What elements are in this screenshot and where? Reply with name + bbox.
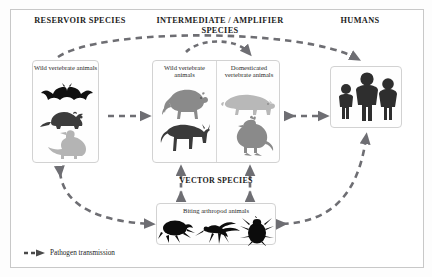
mosquito-silhouette: [195, 222, 240, 244]
box-label-intermediate-wild: Wild vertebrate animals: [153, 61, 216, 79]
flea-silhouette: [158, 221, 195, 244]
box-label-vector: Biting arthropod animals: [157, 204, 275, 214]
legend-label: Pathogen transmission: [50, 249, 115, 257]
dashed-arrow-icon: [24, 249, 46, 257]
reservoir-animal-silhouettes: [33, 79, 100, 161]
header-vector-species: VECTOR SPECIES: [176, 176, 256, 186]
box-label-intermediate-domesticated: Domesticated vertebrate animals: [217, 61, 281, 79]
legend: Pathogen transmission: [24, 249, 115, 257]
pig-silhouette: [221, 95, 275, 115]
header-reservoir-species: RESERVOIR SPECIES: [22, 16, 138, 26]
bat-silhouette: [41, 83, 93, 100]
vector-animal-silhouettes: [157, 216, 277, 246]
header-humans: HUMANS: [300, 16, 420, 26]
intermediate-wild-silhouettes: [153, 81, 217, 159]
box-vector-arthropods[interactable]: Biting arthropod animals: [156, 203, 276, 245]
monkey-silhouette: [162, 90, 208, 119]
header-intermediate-amplifier-species: INTERMEDIATE / AMPLIFIER SPECIES: [140, 16, 300, 36]
chicken-silhouette: [237, 116, 273, 156]
intermediate-domesticated-silhouettes: [217, 89, 281, 159]
adult-figure: [379, 78, 397, 120]
child-figure: [339, 84, 353, 119]
box-intermediate-wild[interactable]: Wild vertebrate animals: [153, 61, 217, 162]
duck-silhouette: [48, 130, 86, 159]
tick-silhouette: [240, 216, 274, 246]
box-humans[interactable]: [330, 66, 402, 128]
box-reservoir-wild-vertebrates[interactable]: Wild vertebrate animals: [32, 60, 99, 163]
box-intermediate-amplifier[interactable]: Wild vertebrate animals Domesticated ve: [152, 60, 280, 163]
rat-silhouette: [40, 112, 83, 129]
box-label-reservoir: Wild vertebrate animals: [33, 61, 98, 71]
human-figures: [331, 67, 403, 129]
diagram-canvas: RESERVOIR SPECIES INTERMEDIATE / AMPLIFI…: [0, 0, 432, 277]
adult-tall-figure: [356, 72, 378, 121]
deer-silhouette: [161, 124, 210, 151]
box-intermediate-domesticated[interactable]: Domesticated vertebrate animals: [217, 61, 281, 162]
